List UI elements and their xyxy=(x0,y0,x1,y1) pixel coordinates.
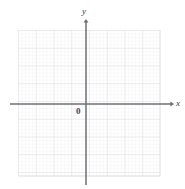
coordinate-plane-figure: y x 0 xyxy=(0,0,185,189)
grid-major-lines xyxy=(18,30,160,176)
y-axis-label: y xyxy=(82,7,86,16)
coordinate-grid-svg xyxy=(0,0,185,189)
origin-label: 0 xyxy=(76,107,81,116)
x-axis-label: x xyxy=(176,99,180,108)
